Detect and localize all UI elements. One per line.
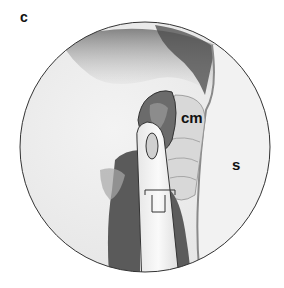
endoscopic-view-illustration (0, 0, 284, 288)
view-content (0, 0, 284, 288)
label-cm: cm (181, 109, 203, 126)
label-s: s (232, 156, 240, 173)
